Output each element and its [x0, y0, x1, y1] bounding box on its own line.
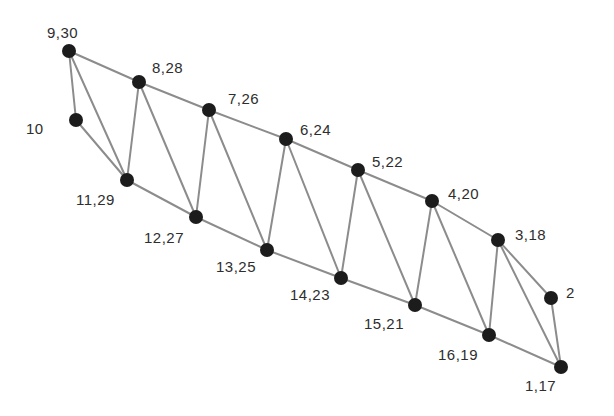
graph-diagram: 9,308,287,266,245,224,203,1821,1716,1915…	[0, 0, 614, 416]
node-6	[279, 132, 293, 146]
node-4	[425, 194, 439, 208]
node-1	[554, 360, 568, 374]
node-label-6: 6,24	[300, 121, 331, 138]
node-12	[189, 210, 203, 224]
node-label-9: 9,30	[47, 24, 78, 41]
edge-9-8	[69, 51, 139, 82]
node-10	[69, 113, 83, 127]
edge-7-12	[196, 110, 209, 217]
edge-3-2	[498, 240, 551, 298]
edge-8-11	[127, 82, 139, 180]
node-13	[260, 243, 274, 257]
edge-13-14	[267, 250, 341, 278]
edges-group	[69, 51, 561, 367]
edge-4-3	[432, 201, 498, 240]
node-15	[408, 298, 422, 312]
edge-6-13	[267, 139, 286, 250]
node-label-11: 11,29	[76, 191, 115, 208]
node-5	[351, 163, 365, 177]
edge-7-6	[209, 110, 286, 139]
node-label-3: 3,18	[515, 226, 546, 243]
edge-11-12	[127, 180, 196, 217]
edge-3-16	[489, 240, 498, 335]
node-3	[491, 233, 505, 247]
edge-10-11	[76, 120, 127, 180]
node-label-10: 10	[26, 120, 44, 137]
node-label-7: 7,26	[228, 90, 259, 107]
node-label-13: 13,25	[216, 258, 256, 275]
node-9	[62, 44, 76, 58]
node-label-14: 14,23	[290, 286, 330, 303]
edge-5-14	[341, 170, 358, 278]
node-7	[202, 103, 216, 117]
edge-4-15	[415, 201, 432, 305]
edge-9-10	[69, 51, 76, 120]
edge-14-15	[341, 278, 415, 305]
node-11	[120, 173, 134, 187]
edge-7-13	[209, 110, 267, 250]
node-8	[132, 75, 146, 89]
node-label-2: 2	[566, 284, 575, 301]
node-label-1: 1,17	[525, 377, 556, 394]
node-2	[544, 291, 558, 305]
node-label-8: 8,28	[152, 59, 183, 76]
node-label-4: 4,20	[448, 185, 479, 202]
node-label-5: 5,22	[372, 153, 403, 170]
node-label-15: 15,21	[364, 315, 404, 332]
node-label-16: 16,19	[438, 346, 478, 363]
node-label-12: 12,27	[144, 229, 184, 246]
edge-16-1	[489, 335, 561, 367]
node-16	[482, 328, 496, 342]
node-14	[334, 271, 348, 285]
